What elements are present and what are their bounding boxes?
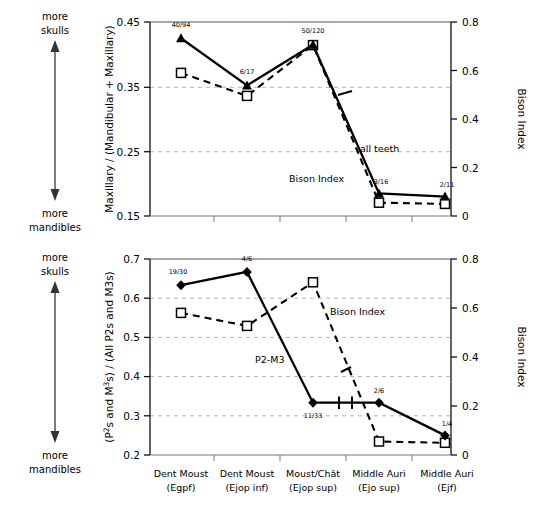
lower-ytick-0.4: 0.4: [123, 370, 140, 382]
xlabel-1-line2: (Ejop inf): [226, 482, 269, 493]
xlabel-4-line2: (Ejf): [437, 482, 456, 493]
upper-y2tick-0: 0: [462, 210, 469, 222]
upper-panel: Maxillary / (Mandibular + Maxillary) Bis…: [103, 16, 528, 222]
xlabel-3-line1: Middle Auri: [352, 468, 405, 479]
xlabel-0-line1: Dent Moust: [154, 468, 209, 479]
lower-xaxis-ticks: [214, 455, 412, 461]
lower-annotation-p2-m3: P2-M3: [255, 354, 284, 365]
xlabel-3-line2: (Ejo sup): [358, 482, 400, 493]
data-point-marker: [374, 398, 384, 408]
lower-ylabel: (P2s and M3s) / (All P2s and M3s): [102, 271, 116, 442]
upper-y2tick-0.8: 0.8: [462, 16, 479, 28]
xlabel-4-line1: Middle Auri: [420, 468, 473, 479]
data-point-marker: [242, 267, 252, 277]
upper-ytick-0.25: 0.25: [117, 146, 140, 158]
upper-y2label: Bison Index: [516, 89, 528, 150]
xlabel-2-line2: (Ejop sup): [289, 482, 337, 493]
upper-y2tick-0.6: 0.6: [462, 65, 479, 77]
lower-ytick-0.2: 0.2: [123, 449, 140, 461]
lower-y2tick-0.2: 0.2: [462, 400, 479, 412]
figure-root: more skulls more mandibles Maxillary / (…: [0, 0, 536, 505]
lower-panel: (P2s and M3s) / (All P2s and M3s) Bison …: [102, 253, 529, 461]
lower-y2tick-0.6: 0.6: [462, 302, 479, 314]
data-point-marker: [441, 199, 450, 208]
point-label: 3/16: [374, 178, 389, 186]
bottom-more-mandibles-line2: mandibles: [29, 464, 81, 475]
top-more-skulls-line2: skulls: [41, 25, 69, 36]
lower-right-axis: 0.8 0.6 0.4 0.2 0: [451, 253, 479, 461]
lower-y2tick-0.4: 0.4: [462, 351, 479, 363]
upper-ytick-0.35: 0.35: [117, 81, 140, 93]
lower-ytick-0.7: 0.7: [123, 253, 140, 265]
data-point-marker: [243, 91, 252, 100]
point-label: 50/120: [302, 27, 325, 35]
side-annotation-top: more skulls more mandibles: [29, 11, 81, 233]
lower-ytick-0.5: 0.5: [123, 331, 140, 343]
lower-annotation-bison-index: Bison Index: [330, 306, 385, 317]
point-label: 19/30: [169, 268, 188, 276]
top-more-mandibles-line1: more: [42, 208, 68, 219]
data-point-marker: [309, 278, 318, 287]
data-point-marker: [375, 198, 384, 207]
bottom-more-skulls-line1: more: [42, 252, 68, 263]
data-point-marker: [176, 280, 186, 290]
point-label: 4/6: [242, 255, 252, 263]
data-point-marker: [177, 308, 186, 317]
point-label: 6/17: [240, 68, 255, 76]
lower-series-bison-index: [177, 278, 450, 448]
upper-ytick-0.15: 0.15: [117, 210, 140, 222]
data-point-marker: [177, 68, 186, 77]
double-headed-vertical-arrow-icon: [51, 281, 60, 443]
xaxis-category-labels: Dent Moust (Egpf) Dent Moust (Ejop inf) …: [154, 468, 474, 493]
upper-right-axis: 0.8 0.6 0.4 0.2 0: [451, 16, 479, 222]
double-headed-vertical-arrow-icon: [51, 40, 60, 201]
bottom-more-skulls-line2: skulls: [41, 266, 69, 277]
upper-gridlines: [150, 87, 451, 151]
point-label: 11/33: [304, 412, 323, 420]
top-more-mandibles-line2: mandibles: [29, 222, 81, 233]
upper-ylabel: Maxillary / (Mandibular + Maxillary): [103, 25, 115, 212]
side-annotation-bottom: more skulls more mandibles: [29, 252, 81, 475]
lower-ytick-0.3: 0.3: [123, 410, 140, 422]
xlabel-2-line1: Moust/Chât: [286, 468, 340, 479]
point-label: 40/94: [172, 21, 191, 29]
lower-y2label: Bison Index: [516, 327, 528, 388]
bottom-more-mandibles-line1: more: [42, 450, 68, 461]
data-point-marker: [308, 398, 318, 408]
data-point-marker: [176, 33, 186, 42]
upper-annotation-bison-index: Bison Index: [289, 173, 344, 184]
lower-plot-frame: [150, 259, 451, 455]
upper-ytick-0.45: 0.45: [117, 16, 140, 28]
lower-left-axis: 0.7 0.6 0.5 0.4 0.3 0.2: [123, 253, 150, 461]
upper-xaxis-ticks: [214, 216, 412, 222]
upper-y2tick-0.4: 0.4: [462, 113, 479, 125]
lower-y2tick-0: 0: [462, 449, 469, 461]
lower-ytick-0.6: 0.6: [123, 292, 140, 304]
upper-y2tick-0.2: 0.2: [462, 162, 479, 174]
lower-y2tick-0.8: 0.8: [462, 253, 479, 265]
point-label: 1/4: [442, 420, 452, 428]
xlabel-1-line1: Dent Moust: [220, 468, 275, 479]
data-point-marker: [375, 437, 384, 446]
data-point-marker: [243, 321, 252, 330]
xlabel-0-line2: (Egpf): [167, 482, 196, 493]
upper-annotation-all-teeth: all teeth: [360, 143, 399, 154]
chart-svg: more skulls more mandibles Maxillary / (…: [0, 0, 536, 505]
point-label: 2/6: [374, 387, 384, 395]
point-label: 2/11: [440, 181, 455, 189]
top-more-skulls-line1: more: [42, 11, 68, 22]
upper-left-axis: 0.45 0.35 0.25 0.15: [117, 16, 150, 222]
